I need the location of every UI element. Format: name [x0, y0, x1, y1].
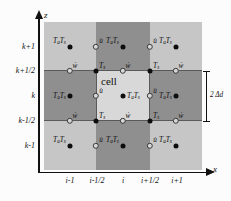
x-axis-label: x [213, 165, 217, 174]
w-velocity-label: ẇ [73, 113, 78, 120]
w-velocity-label: ẇ [179, 63, 184, 70]
x-tick-i-plus-1: i+1 [171, 177, 183, 185]
w-velocity-label: ẇ [73, 63, 78, 70]
w-velocity-label: ẇ [179, 113, 184, 120]
scalar-node-center [121, 143, 126, 148]
scalar-node-corner [94, 119, 99, 124]
scalar-node-center [174, 94, 179, 99]
x-axis-line [38, 172, 208, 174]
scalar-node-center [68, 44, 73, 49]
corner-scalar-label: Ts [153, 111, 159, 119]
scalar-node-center [121, 94, 126, 99]
bracket-top-cap [203, 71, 210, 72]
w-velocity-label: ẇ [126, 63, 131, 70]
corner-scalar-label: Ts [99, 111, 105, 119]
u-velocity-label: u̇ [153, 38, 157, 45]
scalar-node-label: TaTs [53, 92, 66, 100]
u-velocity-label: u̇ [99, 137, 103, 144]
z-tick-k-plus-1: k+1 [22, 43, 35, 51]
scalar-node-label: TaTs [159, 92, 172, 100]
scalar-node-center [174, 44, 179, 49]
scalar-node-center [68, 143, 73, 148]
corner-scalar-label: Ts [153, 61, 159, 69]
x-tick-i-minus-1: i-1 [66, 177, 75, 185]
x-tick-i: i [122, 177, 124, 185]
scalar-node-corner [148, 119, 153, 124]
z-tick-k: k [31, 92, 35, 100]
u-velocity-label: u̇ [153, 88, 157, 95]
u-velocity-label: u̇ [99, 88, 103, 95]
z-tick-k-minus-half: k-1/2 [19, 117, 35, 125]
z-axis-line [38, 18, 40, 173]
x-tick-i-plus-half: i+1/2 [141, 177, 159, 185]
bracket-bottom-cap [203, 121, 210, 122]
bracket-label: 2 Δd [210, 92, 223, 99]
scalar-node-center [68, 94, 73, 99]
scalar-node-label: TaTs [159, 135, 172, 143]
figure-root: z x [0, 0, 231, 201]
z-axis-arrow-icon [35, 10, 43, 19]
scalar-node-label: TaTs [53, 36, 66, 44]
scalar-node-label: TaTs [127, 92, 140, 100]
scalar-node-label: TaTs [106, 36, 119, 44]
bracket-vertical-line [206, 71, 207, 121]
u-velocity-label: u̇ [153, 137, 157, 144]
scalar-node-label: TaTs [53, 135, 66, 143]
scalar-node-corner [148, 69, 153, 74]
scalar-node-center [121, 44, 126, 49]
scalar-node-label: TaTs [159, 36, 172, 44]
scalar-node-label: TaTs [106, 135, 119, 143]
x-tick-i-minus-half: i-1/2 [89, 177, 104, 185]
corner-scalar-label: Ts [99, 61, 105, 69]
z-tick-k-plus-half: k+1/2 [16, 67, 35, 75]
w-velocity-label: ẇ [126, 113, 131, 120]
u-velocity-label: u̇ [99, 38, 103, 45]
z-tick-k-minus-1: k-1 [25, 142, 35, 150]
scalar-node-center [174, 143, 179, 148]
cell-caption: cell [101, 76, 117, 87]
z-axis-label: z [44, 11, 48, 20]
scalar-node-corner [94, 69, 99, 74]
staggered-grid: TaTs TaTs TaTs TaTs TaTs TaTs TaTs TaTs … [44, 22, 202, 170]
